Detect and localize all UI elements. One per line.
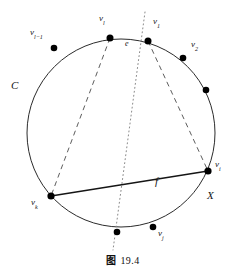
curve-label-c: C [11,80,18,91]
vertex-dot-v-l-minus-1 [51,45,58,52]
vertex-label-v-1: v1 [153,17,160,26]
edge-label-e: e [125,40,129,48]
circle-diagram [0,0,246,277]
vertex-dot-v-j [150,224,157,231]
edge-label-f: f [155,176,158,187]
vertex-dot-unlabeled-right [203,87,210,94]
vertex-label-v-i: vi [215,160,221,169]
vertex-label-v-j: vj [158,229,164,238]
figure-caption: 图 19.4 [0,252,246,267]
caption-prefix: 图 [106,255,116,266]
dashed-edge-v1-vi [148,41,208,171]
dotted-cut-line [113,12,145,250]
vertex-label-v-k: vk [31,198,38,207]
vertex-dot-v-2 [180,55,187,62]
vertex-label-v-l-minus-1: vl−1 [30,28,43,37]
vertex-label-v-l: vl [99,14,105,23]
vertex-dot-unlabeled-bottom [114,229,121,236]
caption-number: 19.4 [120,255,139,266]
region-label-x: X [207,190,214,201]
vertex-dot-v-l [107,35,114,42]
circle-c [27,39,215,227]
vertex-label-v-2: v2 [191,40,198,49]
figure-container: vl−1 vl v1 v2 vi vj vk C X e f 图 19.4 [0,0,246,277]
vertex-dot-v-i [204,167,211,174]
chord-f [51,171,208,196]
vertex-dot-v-1 [145,38,152,45]
vertex-dot-v-k [47,192,54,199]
